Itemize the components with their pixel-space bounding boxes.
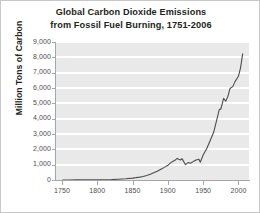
emissions-polyline bbox=[63, 54, 243, 180]
y-axis-tick-mark bbox=[52, 134, 55, 135]
y-axis-tick-label: 2,000 bbox=[7, 145, 51, 152]
x-axis-tick-label: 1950 bbox=[183, 187, 223, 194]
y-axis-tick-label: 3,000 bbox=[7, 130, 51, 137]
x-axis-tick-mark bbox=[203, 181, 204, 185]
y-axis-tick-label: 7,000 bbox=[7, 68, 51, 75]
y-axis-tick-label: 6,000 bbox=[7, 84, 51, 91]
x-axis-tick-mark bbox=[133, 181, 134, 185]
y-axis-tick-labels: 01,0002,0003,0004,0005,0006,0007,0008,00… bbox=[1, 1, 51, 213]
y-axis-tick-mark bbox=[52, 119, 55, 120]
y-axis-tick-mark bbox=[52, 149, 55, 150]
y-axis-tick-label: 1,000 bbox=[7, 160, 51, 167]
x-axis-tick-mark bbox=[238, 181, 239, 185]
y-axis-tick-label: 0 bbox=[7, 176, 51, 183]
emissions-line-series bbox=[55, 42, 249, 180]
x-axis-tick-label: 1800 bbox=[77, 187, 117, 194]
y-axis-tick-label: 8,000 bbox=[7, 53, 51, 60]
x-axis-tick-mark bbox=[62, 181, 63, 185]
y-axis-tick-label: 5,000 bbox=[7, 99, 51, 106]
y-axis-tick-mark bbox=[52, 180, 55, 181]
x-axis-line bbox=[55, 180, 250, 181]
y-axis-tick-label: 9,000 bbox=[7, 38, 51, 45]
y-axis-tick-mark bbox=[52, 57, 55, 58]
x-axis-tick-label: 1850 bbox=[113, 187, 153, 194]
x-axis-tick-mark bbox=[168, 181, 169, 185]
x-axis-tick-label: 1750 bbox=[42, 187, 82, 194]
y-axis-tick-mark bbox=[52, 73, 55, 74]
y-axis-tick-mark bbox=[52, 42, 55, 43]
chart-figure: Global Carbon Dioxide Emissions from Fos… bbox=[0, 0, 260, 213]
y-axis-tick-mark bbox=[52, 165, 55, 166]
y-axis-tick-label: 4,000 bbox=[7, 114, 51, 121]
x-axis-tick-label: 2000 bbox=[218, 187, 258, 194]
x-axis-tick-label: 1900 bbox=[148, 187, 188, 194]
y-axis-tick-mark bbox=[52, 88, 55, 89]
x-axis-tick-mark bbox=[97, 181, 98, 185]
y-axis-tick-mark bbox=[52, 103, 55, 104]
